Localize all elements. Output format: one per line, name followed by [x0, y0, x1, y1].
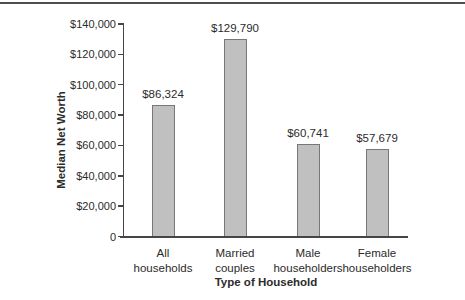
y-tick-mark: [118, 236, 124, 238]
y-tick-mark: [118, 54, 124, 56]
y-tick-mark: [118, 175, 124, 177]
y-tick-mark: [118, 114, 124, 116]
y-tick-label: $60,000: [38, 138, 116, 152]
y-tick-label: $20,000: [38, 199, 116, 213]
x-axis-title: Type of Household: [124, 276, 408, 288]
x-axis-line: [120, 236, 408, 238]
y-tick-mark: [118, 84, 124, 86]
net-worth-bar-chart: Median Net Worth 0$20,000$40,000$60,000$…: [0, 0, 465, 300]
y-tick-mark: [118, 205, 124, 207]
bar-value-label: $60,741: [268, 126, 348, 140]
y-tick-label: $140,000: [38, 17, 116, 31]
y-tick-label: $40,000: [38, 169, 116, 183]
bar: [366, 149, 389, 236]
bar-value-label: $57,679: [337, 131, 417, 145]
bar-value-label: $129,790: [195, 21, 275, 35]
bar: [297, 144, 320, 236]
y-tick-label: $100,000: [38, 78, 116, 92]
bar-value-label: $86,324: [123, 87, 203, 101]
y-tick-label: $80,000: [38, 108, 116, 122]
category-label: Female householders: [329, 246, 425, 276]
y-tick-mark: [118, 145, 124, 147]
plot-area: 0$20,000$40,000$60,000$80,000$100,000$12…: [0, 0, 465, 300]
bar: [224, 39, 247, 236]
y-tick-label: 0: [38, 230, 116, 244]
y-tick-label: $120,000: [38, 47, 116, 61]
bar: [152, 105, 175, 236]
y-tick-mark: [118, 23, 124, 25]
